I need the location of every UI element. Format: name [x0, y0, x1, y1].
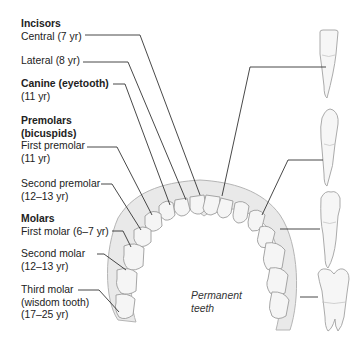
label-second-molar: Second molar [21, 248, 85, 261]
side-teeth [318, 30, 349, 331]
label-central-incisor: Central (7 yr) [21, 31, 82, 44]
caption-line-1: Permanent [191, 290, 242, 303]
label-group-incisors: Incisors Central (7 yr) [21, 18, 82, 43]
heading-canine: Canine (eyetooth) [21, 78, 109, 91]
tooth-right-canine [233, 202, 249, 223]
subheading-bicuspids: (bicuspids) [21, 128, 85, 141]
label-second-premolar-wrap: Second premolar (12–13 yr) [21, 178, 100, 203]
tooth-right-third-molar [269, 292, 289, 319]
label-lateral-incisor-wrap: Lateral (8 yr) [21, 55, 80, 68]
line-central-incisor [85, 35, 200, 195]
label-third-molar-wrap: Third molar (wisdom tooth) (17–25 yr) [21, 284, 89, 322]
label-third-molar-note: (wisdom tooth) [21, 297, 89, 310]
label-third-molar-age: (17–25 yr) [21, 309, 89, 322]
line-side-incisor [222, 67, 326, 196]
caption-line-2: teeth [191, 303, 242, 316]
label-first-premolar-age: (11 yr) [21, 153, 85, 166]
tooth-left-second-premolar [134, 227, 151, 247]
label-second-molar-wrap: Second molar (12–13 yr) [21, 248, 85, 273]
label-group-premolars: Premolars (bicuspids) First premolar (11… [21, 115, 85, 165]
label-second-premolar-age: (12–13 yr) [21, 191, 100, 204]
tooth-left-first-molar [124, 244, 145, 270]
tooth-left-second-molar [117, 269, 138, 295]
caption-permanent-teeth: Permanent teeth [191, 290, 242, 315]
label-first-molar: First molar (6–7 yr) [21, 226, 109, 239]
label-lateral-incisor: Lateral (8 yr) [21, 55, 80, 68]
heading-incisors: Incisors [21, 18, 82, 31]
tooth-left-third-molar [115, 294, 135, 319]
side-canine-icon [321, 109, 338, 186]
tooth-left-lateral-incisor [174, 198, 190, 216]
side-incisor-icon [320, 30, 338, 98]
label-group-canine: Canine (eyetooth) (11 yr) [21, 78, 109, 103]
side-premolar-icon [321, 192, 341, 268]
heading-molars: Molars [21, 213, 109, 226]
tooth-right-first-molar [263, 243, 285, 271]
side-molar-icon [318, 269, 349, 331]
label-canine-age: (11 yr) [21, 91, 109, 104]
label-third-molar: Third molar [21, 284, 89, 297]
label-second-premolar: Second premolar [21, 178, 100, 191]
tooth-right-second-molar [267, 268, 288, 295]
label-group-molars: Molars First molar (6–7 yr) [21, 213, 109, 238]
heading-premolars: Premolars [21, 115, 85, 128]
label-second-molar-age: (12–13 yr) [21, 261, 85, 274]
label-first-premolar: First premolar [21, 140, 85, 153]
